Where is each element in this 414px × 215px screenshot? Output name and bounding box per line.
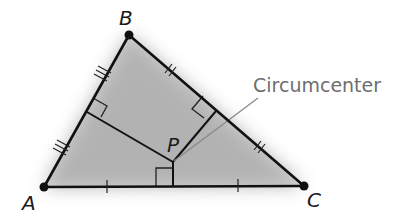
vertex-c-label: C (307, 188, 321, 212)
vertex-a-dot (40, 183, 49, 192)
point-p-label: P (167, 133, 180, 157)
vertex-a-label: A (20, 191, 36, 215)
circumcenter-diagram: A B C P Circumcenter (0, 0, 414, 215)
circumcenter-callout: Circumcenter (253, 74, 381, 96)
side-ac (44, 186, 304, 187)
vertex-b-label: B (119, 6, 133, 30)
vertex-b-dot (125, 31, 134, 40)
